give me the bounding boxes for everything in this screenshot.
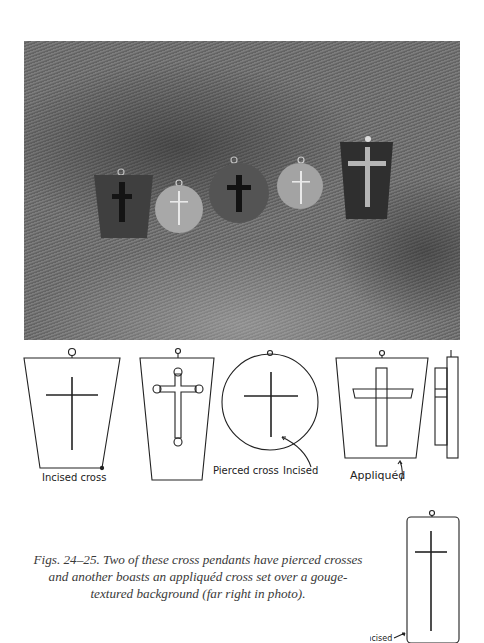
photo-pendant-1 [94, 169, 153, 238]
drawing-pierced-trapezoid [140, 349, 214, 481]
photo-pendant-3 [209, 157, 269, 223]
drawing-side-profile [435, 350, 458, 458]
label-incised-cross: Incised cross [42, 472, 106, 483]
pendants-photo [24, 41, 460, 340]
drawing-incised-rectangle-graphic: Incised [370, 500, 484, 643]
label-incised-final: Incised [370, 634, 392, 643]
caption-line-1: Figs. 24–25. Two of these cross pendants… [18, 551, 378, 568]
drawing-incised-circle [222, 351, 318, 468]
photo-pendant-2 [155, 180, 203, 233]
label-appliqued: Appliquéd [350, 469, 405, 482]
photo-pendant-5 [340, 136, 393, 219]
label-incised: Incised [283, 465, 318, 476]
pendant-drawings-graphic: Incised cross Pierced cross Incised Appl… [0, 340, 484, 490]
label-pierced-cross: Pierced cross [213, 465, 279, 476]
drawing-incised-trapezoid [24, 349, 120, 470]
drawing-incised-rectangle: Incised [370, 500, 484, 643]
photo-pendant-4 [277, 157, 323, 209]
caption-line-2: and another boasts an appliquéd cross se… [18, 568, 378, 585]
pendant-drawings: Incised cross Pierced cross Incised Appl… [0, 340, 484, 490]
pendants-photo-graphic [24, 41, 460, 340]
drawing-appliqued-trapezoid [336, 351, 428, 482]
figure-caption: Figs. 24–25. Two of these cross pendants… [18, 551, 378, 602]
caption-line-3: textured background (far right in photo)… [18, 585, 378, 602]
